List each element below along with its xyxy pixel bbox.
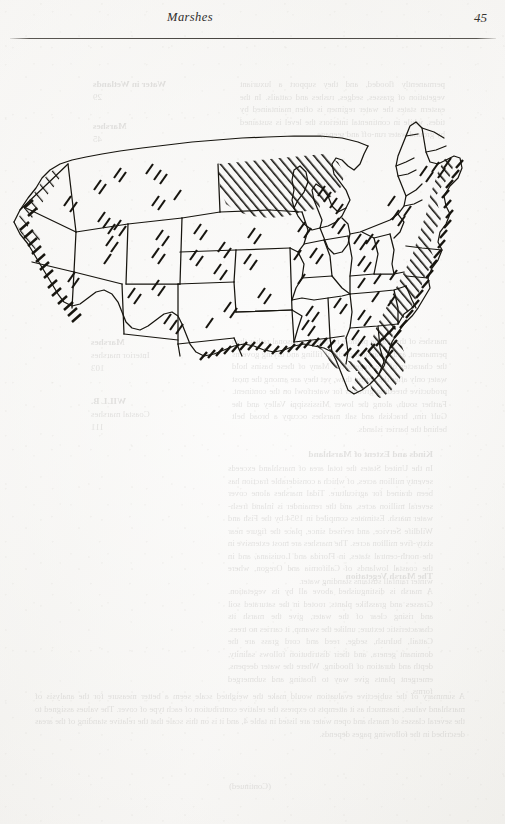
hatch-pacific-coast	[16, 168, 62, 312]
bleedthrough-left-bottom-head: The Marsh Vegetation	[233, 570, 433, 583]
bleedthrough-right-top-head: Water in Wetlands	[93, 78, 213, 91]
book-page: permanently flooded, and they support a …	[0, 0, 505, 824]
running-head: Marshes 45	[0, 10, 505, 36]
map-svg	[2, 112, 502, 432]
bleedthrough-bottom-center: (Continued)	[35, 780, 465, 793]
page-number: 45	[474, 10, 487, 26]
hatch-prairie-pothole	[218, 154, 344, 218]
bleedthrough-left-lower-head: Kinds and Extent of Marshland	[233, 448, 433, 461]
bleedthrough-left-lower: In the United States the total area of m…	[228, 462, 433, 587]
bleedthrough-right-top-num: 29	[93, 91, 213, 104]
us-marsh-distribution-map	[2, 112, 502, 432]
running-head-title: Marshes	[0, 10, 380, 25]
header-rule	[10, 38, 496, 39]
bleedthrough-bottom-left: A summary of the subjective evaluation w…	[35, 690, 465, 740]
bleedthrough-left-bottom: A marsh is distinguished above all by it…	[228, 585, 433, 698]
